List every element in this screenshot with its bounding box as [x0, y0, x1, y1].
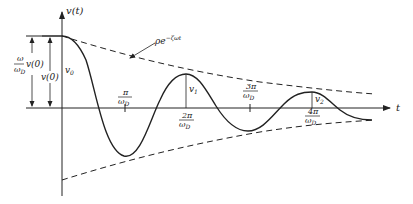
svg-text:4π: 4π [307, 107, 319, 116]
svg-text:ωD: ωD [179, 120, 191, 130]
svg-text:ωD: ωD [305, 116, 317, 126]
y-axis-label: v(t) [66, 5, 84, 16]
response-curve [62, 36, 372, 156]
v0-dimension-label: v(0) [40, 71, 60, 83]
svg-text:2π: 2π [181, 111, 193, 120]
svg-text:3π: 3π [246, 82, 257, 91]
tick-label-2pi: 2π ωD [179, 111, 194, 130]
svg-text:ωD: ωD [243, 91, 255, 101]
lower-envelope [62, 120, 375, 180]
tick-label-pi: π ωD [118, 88, 132, 107]
svg-text:π: π [122, 88, 129, 97]
svg-text:v(0): v(0) [26, 59, 44, 69]
v1-label: v1 [189, 84, 198, 95]
x-axis-label: t [396, 102, 401, 113]
envelope-label-arrow [130, 43, 155, 58]
damped-oscillation-diagram: v(t) t ω ωD v(0) v(0) ρe−ζωt v0 v1 v2 π [0, 0, 413, 204]
upper-envelope [62, 36, 375, 94]
svg-text:ωD: ωD [118, 97, 130, 107]
tick-label-3pi: 3π ωD [243, 82, 258, 101]
svg-text:v(0): v(0) [41, 72, 59, 82]
svg-text:ω: ω [17, 54, 24, 63]
envelope-label: ρe−ζωt [154, 34, 182, 46]
v0-label: v0 [65, 65, 74, 76]
tick-label-4pi: 4π ωD [305, 107, 320, 126]
omega-ratio-label: ω ωD v(0) [12, 53, 44, 75]
